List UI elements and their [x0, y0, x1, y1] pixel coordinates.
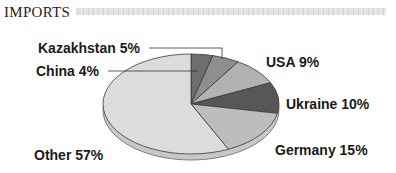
- label-china: China 4%: [36, 63, 100, 79]
- pie-slices: [103, 54, 279, 154]
- label-other: Other 57%: [34, 147, 104, 163]
- label-kazakhstan: Kazakhstan 5%: [38, 40, 140, 56]
- label-ukraine: Ukraine 10%: [286, 96, 370, 112]
- pie-chart: Kazakhstan 5% China 4% USA 9% Ukraine 10…: [0, 0, 396, 173]
- label-germany: Germany 15%: [275, 142, 368, 158]
- label-usa: USA 9%: [266, 54, 320, 70]
